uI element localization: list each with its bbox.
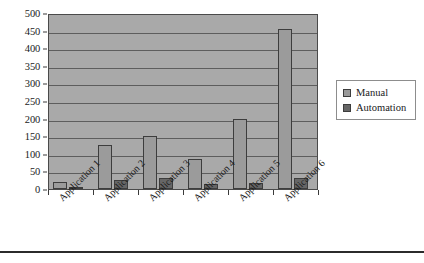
y-tick-mark (43, 49, 47, 50)
chart-legend: Manual Automation (336, 80, 416, 120)
bar-manual (233, 119, 247, 189)
y-tick-mark (43, 84, 47, 85)
y-tick-mark (43, 172, 47, 173)
legend-swatch-automation (343, 104, 351, 112)
bottom-divider (0, 251, 424, 253)
y-tick-label: 450 (25, 26, 40, 37)
y-tick-label: 200 (25, 114, 40, 125)
y-tick-mark (43, 137, 47, 138)
y-tick-label: 500 (25, 9, 40, 20)
legend-swatch-manual (343, 89, 351, 97)
y-tick-mark (43, 102, 47, 103)
y-tick-label: 50 (30, 167, 40, 178)
y-tick-label: 150 (25, 132, 40, 143)
legend-item-automation: Automation (343, 103, 410, 114)
y-tick-mark (43, 154, 47, 155)
legend-label-automation: Automation (356, 103, 406, 114)
y-tick-mark (43, 119, 47, 120)
y-tick-label: 300 (25, 79, 40, 90)
y-tick-label: 100 (25, 150, 40, 161)
y-tick-mark (43, 66, 47, 67)
y-tick-label: 250 (25, 97, 40, 108)
legend-label-manual: Manual (356, 88, 388, 99)
y-tick-mark (43, 31, 47, 32)
y-tick-label: 350 (25, 62, 40, 73)
chart-figure: 050100150200250300350400450500 Applicati… (0, 0, 424, 263)
y-tick-label: 400 (25, 44, 40, 55)
y-tick-mark (43, 14, 47, 15)
legend-item-manual: Manual (343, 88, 410, 99)
x-axis-labels: Application 1Application 2Application 3A… (0, 190, 424, 260)
